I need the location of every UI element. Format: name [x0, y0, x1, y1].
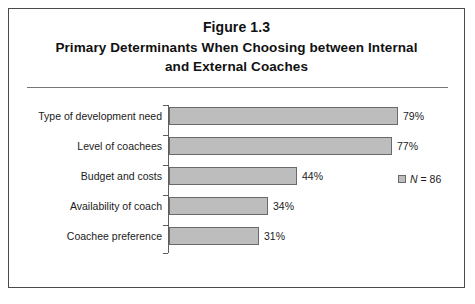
- figure-title-line-2: and External Coaches: [9, 57, 464, 76]
- bar-budget-and-costs[interactable]: [169, 167, 297, 185]
- title-divider: [27, 87, 448, 88]
- axis-tick: [163, 105, 168, 106]
- bar-row: Level of coachees 77%: [9, 137, 466, 155]
- legend-swatch-icon: [398, 175, 406, 183]
- figure-title-block: Figure 1.3 Primary Determinants When Cho…: [9, 17, 464, 76]
- figure-title-line-1: Primary Determinants When Choosing betwe…: [9, 38, 464, 57]
- axis-tick: [163, 195, 168, 196]
- axis-tick: [163, 165, 168, 166]
- bar-value-label: 77%: [397, 137, 418, 155]
- figure-number: Figure 1.3: [9, 17, 464, 38]
- axis-tick: [163, 135, 168, 136]
- legend-label: N = 86: [410, 173, 441, 185]
- bar-availability-of-coach[interactable]: [169, 197, 268, 215]
- bar-value-label: 79%: [403, 107, 424, 125]
- axis-tick: [163, 225, 168, 226]
- category-label: Level of coachees: [77, 137, 168, 155]
- chart-legend: N = 86: [398, 173, 441, 185]
- bar-coachee-preference[interactable]: [169, 227, 259, 245]
- legend-label-symbol: N: [410, 173, 418, 185]
- axis-tick: [163, 253, 168, 254]
- bar-row: Availability of coach 34%: [9, 197, 466, 215]
- bar-level-of-coachees[interactable]: [169, 137, 392, 155]
- bar-row: Coachee preference 31%: [9, 227, 466, 245]
- category-label: Availability of coach: [70, 197, 168, 215]
- bar-row: Type of development need 79%: [9, 107, 466, 125]
- category-label: Type of development need: [38, 107, 168, 125]
- bar-value-label: 31%: [264, 227, 285, 245]
- chart-plot-area: Type of development need 79% Level of co…: [9, 97, 466, 287]
- bar-value-label: 44%: [302, 167, 323, 185]
- category-label: Coachee preference: [67, 227, 168, 245]
- legend-label-value: = 86: [418, 173, 442, 185]
- figure-frame: Figure 1.3 Primary Determinants When Cho…: [8, 8, 465, 288]
- bar-type-of-development-need[interactable]: [169, 107, 398, 125]
- bar-value-label: 34%: [273, 197, 294, 215]
- category-label: Budget and costs: [81, 167, 168, 185]
